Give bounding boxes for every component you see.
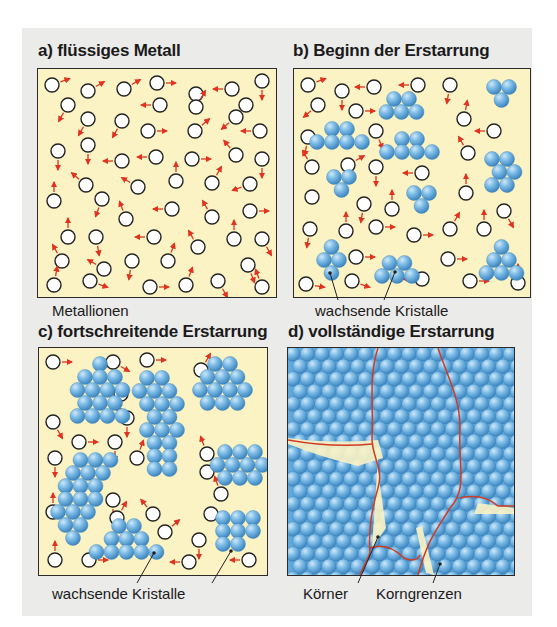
panel-d-complete-solidification (287, 347, 515, 576)
panel-c-growing-crystals (38, 347, 268, 576)
label-growing-crystals: wachsende Kristalle (52, 585, 185, 602)
label-grains: Körner (303, 585, 348, 602)
panel-b-nucleation (293, 68, 531, 298)
panel-a-liquid-metal (37, 68, 277, 298)
label-grain-boundaries: Korngrenzen (376, 585, 462, 602)
label-metal-ions: Metallionen (52, 302, 129, 319)
panel-c-title: c) fortschreitende Erstarrung (38, 322, 267, 342)
panel-a-title: a) flüssiges Metall (38, 41, 181, 61)
ions-with-motion-arrows (38, 69, 276, 297)
panel-d-title: d) vollständige Erstarrung (288, 322, 494, 342)
growing-crystals (39, 348, 267, 575)
grains-and-boundaries (288, 348, 514, 575)
panel-b-title: b) Beginn der Erstarrung (293, 41, 489, 61)
label-nuclei: wachsende Kristalle (315, 302, 448, 319)
ions-and-nuclei (294, 69, 530, 297)
